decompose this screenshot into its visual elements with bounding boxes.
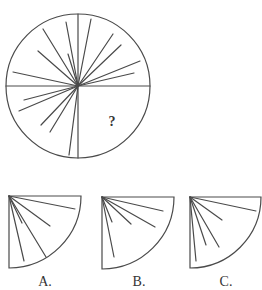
option-b-figure[interactable] (102, 197, 174, 269)
ray-line (102, 197, 155, 227)
quadrant-outline (9, 196, 81, 268)
ray-line (69, 86, 78, 155)
option-a-label[interactable]: A. (38, 274, 52, 289)
option-c-label[interactable]: C. (220, 274, 233, 289)
ray-line (102, 197, 112, 222)
option-a-figure[interactable] (9, 196, 81, 268)
ray-line (102, 197, 163, 211)
option-b-label[interactable]: B. (133, 274, 146, 289)
puzzle-canvas: ? A. B. C. (0, 0, 262, 290)
ray-line (13, 72, 78, 86)
option-c-figure[interactable] (190, 197, 261, 268)
main-circle-figure (6, 14, 150, 158)
ray-line (41, 86, 78, 125)
ray-line (50, 86, 78, 132)
ray-line (9, 196, 75, 209)
question-mark: ? (109, 114, 116, 129)
ray-line (9, 196, 46, 257)
quadrant-outline (190, 197, 261, 268)
